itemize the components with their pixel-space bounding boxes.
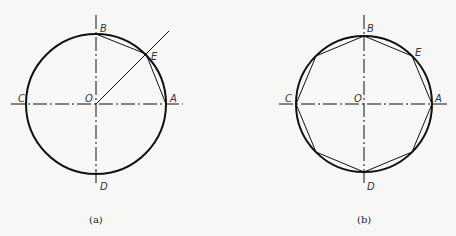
label-D: D (100, 181, 108, 192)
caption-b: (b) (357, 214, 371, 225)
label-C: C (285, 93, 292, 104)
label-A: A (169, 93, 177, 104)
label-E: E (151, 51, 158, 62)
label-A: A (434, 93, 442, 104)
label-B: B (100, 23, 107, 34)
label-C: C (18, 93, 25, 104)
figure-b: B E A C O D (b) (279, 15, 450, 225)
label-D: D (367, 181, 375, 192)
diagram-canvas: B E A C O D (a) B E A C O D (b) (0, 0, 456, 236)
caption-a: (a) (89, 214, 103, 225)
label-O: O (354, 93, 362, 104)
label-O: O (85, 93, 93, 104)
label-B: B (367, 23, 374, 34)
figure-a: B E A C O D (a) (11, 15, 183, 225)
bisector-line (96, 31, 169, 104)
label-E: E (415, 47, 422, 58)
